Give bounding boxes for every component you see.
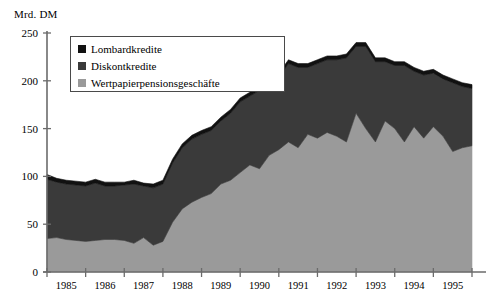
chart-legend: Lombardkredite Diskontkredite Wertpapier… bbox=[70, 36, 285, 92]
y-tick-label: 250 bbox=[22, 27, 39, 39]
x-tick-label: 1993 bbox=[365, 280, 386, 291]
legend-item-wertpapierpensionsgeschaefte: Wertpapierpensionsgeschäfte bbox=[78, 75, 278, 91]
x-tick-label: 1989 bbox=[210, 280, 231, 291]
legend-swatch-diskontkredite bbox=[78, 62, 86, 70]
x-tick-label: 1987 bbox=[133, 280, 154, 291]
x-tick-label: 1990 bbox=[249, 280, 270, 291]
chart-container: Mrd. DM 050100150200250 1985198619871988… bbox=[0, 0, 493, 304]
x-tick-label: 1991 bbox=[288, 280, 309, 291]
legend-label-lombardkredite: Lombardkredite bbox=[91, 44, 162, 55]
x-tick-label: 1986 bbox=[94, 280, 115, 291]
legend-swatch-lombardkredite bbox=[78, 45, 86, 53]
legend-label-wertpapierpensionsgeschaefte: Wertpapierpensionsgeschäfte bbox=[91, 78, 220, 89]
y-tick-label: 50 bbox=[27, 218, 39, 230]
y-tick-label: 0 bbox=[33, 266, 39, 278]
x-tick-label: 1994 bbox=[404, 280, 426, 291]
legend-item-lombardkredite: Lombardkredite bbox=[78, 41, 278, 57]
x-tick-label: 1985 bbox=[56, 280, 77, 291]
x-tick-labels: 1985198619871988198919901991199219931994… bbox=[56, 280, 463, 291]
y-tick-label: 100 bbox=[22, 170, 39, 182]
y-tick-label: 200 bbox=[22, 75, 39, 87]
legend-item-diskontkredite: Diskontkredite bbox=[78, 58, 278, 74]
x-tick-label: 1992 bbox=[326, 280, 347, 291]
x-tick-label: 1995 bbox=[442, 280, 463, 291]
x-tick-label: 1988 bbox=[172, 280, 193, 291]
y-tick-labels: 050100150200250 bbox=[22, 27, 39, 278]
legend-label-diskontkredite: Diskontkredite bbox=[91, 61, 156, 72]
y-tick-label: 150 bbox=[22, 123, 39, 135]
legend-swatch-wertpapierpensionsgeschaefte bbox=[78, 79, 86, 87]
